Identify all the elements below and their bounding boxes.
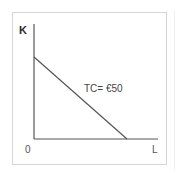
x-axis-label: L (152, 145, 158, 155)
isocost-line (34, 57, 127, 139)
y-axis-label: K (19, 25, 27, 36)
isocost-line-label: TC= €50 (84, 84, 123, 94)
origin-label: 0 (25, 145, 31, 155)
